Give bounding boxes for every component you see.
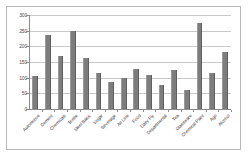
bar [133,69,139,109]
bar [70,31,76,109]
y-tick-mark [26,109,29,110]
bar [209,73,215,109]
x-tick-mark [117,110,118,112]
bar [184,90,190,109]
x-tick-mark [168,110,169,112]
x-tick-mark [218,110,219,112]
x-tick-mark [231,110,232,112]
bar [108,82,114,109]
x-tick-mark [42,110,43,112]
bar [171,70,177,109]
x-tick-mark [92,110,93,112]
y-tick-mark [26,31,29,32]
x-axis: AutomotiveCementChemicalsTextileSteel Ba… [29,112,231,150]
bar-series [29,15,231,109]
bar [45,35,51,109]
y-tick-mark [26,93,29,94]
bar [159,85,165,109]
bar [222,52,228,109]
x-tick-mark [54,110,55,112]
bar [32,76,38,109]
x-tick-mark [67,110,68,112]
x-tick-mark [206,110,207,112]
x-tick-mark [155,110,156,112]
x-tick-mark [80,110,81,112]
y-axis: 050100150200250300 [7,15,28,109]
bar [96,73,102,109]
bar [58,56,64,109]
y-tick-mark [26,46,29,47]
y-tick-mark [26,78,29,79]
bar [197,23,203,109]
y-tick-mark [26,62,29,63]
x-tick-mark [105,110,106,112]
plot-area: 050100150200250300 AutomotiveCementChemi… [7,7,240,149]
bar [146,75,152,109]
bar [83,58,89,109]
bar [121,78,127,109]
x-tick-mark [143,110,144,112]
x-tick-mark [130,110,131,112]
y-tick-mark [26,15,29,16]
x-tick-mark [193,110,194,112]
chart-container: 050100150200250300 AutomotiveCementChemi… [6,6,241,150]
x-tick-mark [181,110,182,112]
